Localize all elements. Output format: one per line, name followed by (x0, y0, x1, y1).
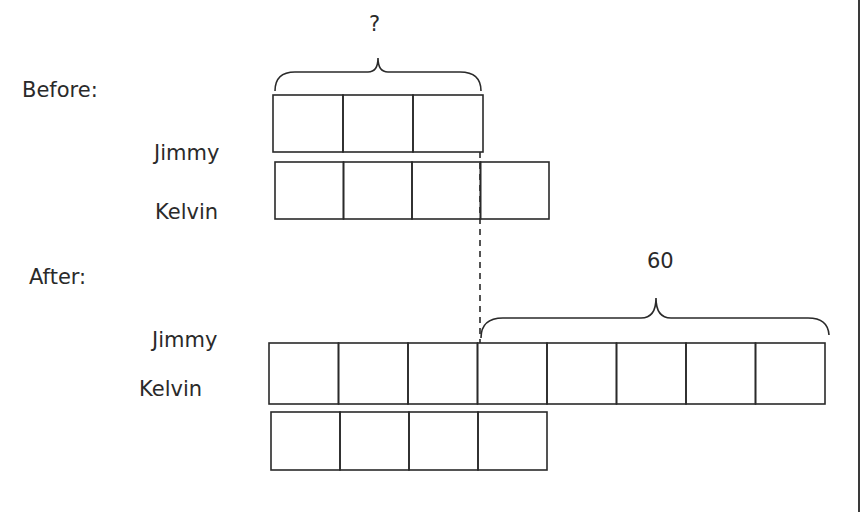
before-kelvin-bar (275, 162, 549, 219)
bar-unit (412, 162, 481, 219)
bar-unit (271, 412, 340, 470)
bar-unit (617, 343, 687, 404)
sixty-brace (481, 298, 829, 338)
bar-unit (481, 162, 550, 219)
bar-model-diagram (0, 0, 861, 512)
bar-unit (339, 343, 409, 404)
bar-unit (413, 95, 483, 152)
page-edge-line (858, 0, 860, 512)
bar-unit (269, 343, 339, 404)
bar-unit (408, 343, 478, 404)
bar-unit (275, 162, 344, 219)
bar-unit (478, 343, 548, 404)
bar-unit (344, 162, 413, 219)
bar-unit (273, 95, 343, 152)
unknown-brace (275, 58, 481, 91)
before-jimmy-bar (273, 95, 483, 152)
bar-unit (409, 412, 478, 470)
bar-unit (756, 343, 826, 404)
after-jimmy-bar (269, 343, 825, 404)
after-kelvin-bar (271, 412, 547, 470)
bar-unit (343, 95, 413, 152)
bar-unit (478, 412, 547, 470)
bar-unit (547, 343, 617, 404)
bar-unit (340, 412, 409, 470)
bar-unit (686, 343, 756, 404)
